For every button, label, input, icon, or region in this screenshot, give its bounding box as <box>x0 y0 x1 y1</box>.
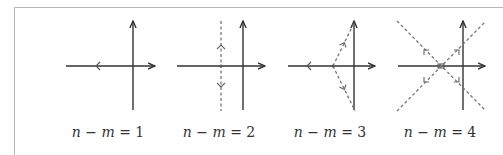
panel-1-axes <box>66 21 155 110</box>
label-n: n <box>404 124 413 140</box>
label-minus: − <box>413 124 434 140</box>
panel-1-label: n − m = 1 <box>53 124 163 144</box>
label-m: m <box>212 124 225 140</box>
label-n: n <box>183 124 192 140</box>
label-value: 2 <box>246 124 255 140</box>
label-eq: = <box>337 124 358 140</box>
label-value: 1 <box>135 124 144 140</box>
label-eq: = <box>447 124 468 140</box>
panel-2-asymptote-lines <box>219 21 222 111</box>
label-minus: − <box>81 124 102 140</box>
label-eq: = <box>115 124 136 140</box>
label-n: n <box>72 124 81 140</box>
label-m: m <box>433 124 446 140</box>
panel-3-label: n − m = 3 <box>275 124 385 144</box>
label-minus: − <box>303 124 324 140</box>
label-minus: − <box>192 124 213 140</box>
panel-4-label: n − m = 4 <box>385 124 495 144</box>
label-value: 4 <box>467 124 476 140</box>
label-m: m <box>101 124 114 140</box>
panel-2-label: n − m = 2 <box>164 124 274 144</box>
label-eq: = <box>226 124 247 140</box>
label-m: m <box>323 124 336 140</box>
label-n: n <box>294 124 303 140</box>
label-value: 3 <box>357 124 366 140</box>
